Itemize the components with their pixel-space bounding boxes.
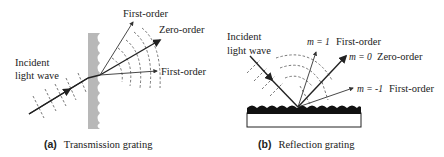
reflection-grating-surface xyxy=(247,106,361,115)
panel-transmission-grating: Incident light wave First-order Zero-ord… xyxy=(15,8,206,151)
m-minus1-label: m = -1 xyxy=(357,84,383,94)
first-order-bottom-label-b: First-order xyxy=(389,83,434,94)
first-order-top-label-b: First-order xyxy=(336,36,381,47)
m-zero-label: m = 0 xyxy=(349,52,372,62)
incident-wavefronts-b xyxy=(247,60,283,96)
transmitted-wavefronts xyxy=(112,28,160,88)
zero-order-label-b: Zero-order xyxy=(377,51,423,62)
incident-label-b-line2: light wave xyxy=(227,45,271,56)
zero-order-label: Zero-order xyxy=(159,24,205,35)
caption-b-tag: (b) xyxy=(258,138,271,150)
reflection-grating-substrate xyxy=(247,113,361,127)
caption-a-tag: (a) xyxy=(44,138,57,150)
zero-order-ray xyxy=(100,40,160,75)
incident-ray-b xyxy=(270,78,298,107)
first-order-ray-top xyxy=(100,22,133,75)
caption-b-text: Reflection grating xyxy=(278,139,355,150)
incident-label-line2: light wave xyxy=(15,70,59,81)
first-order-top-label: First-order xyxy=(123,8,168,19)
incident-label-b-line1: Incident xyxy=(227,31,261,42)
panel-reflection-grating: Incident light wave m = 1 First-order m … xyxy=(227,31,434,151)
m0-zero-order-ray xyxy=(298,56,346,107)
m-plus1-label: m = 1 xyxy=(307,37,330,47)
first-order-ray-bottom xyxy=(100,71,157,75)
caption-a-text: Transmission grating xyxy=(64,139,153,150)
incident-label-line1: Incident xyxy=(15,57,49,68)
caption-a: (a) Transmission grating xyxy=(44,134,153,151)
transmission-grating-plate xyxy=(88,33,100,129)
diffraction-diagram: Incident light wave First-order Zero-ord… xyxy=(0,0,444,157)
first-order-bottom-label: First-order xyxy=(161,66,206,77)
caption-b: (b) Reflection grating xyxy=(258,134,355,151)
